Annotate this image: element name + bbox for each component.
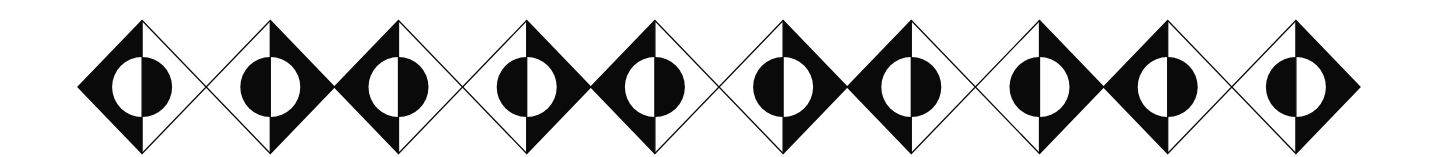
diamond-frieze bbox=[0, 0, 1438, 157]
diamond-a bbox=[78, 21, 206, 154]
diamond-b bbox=[463, 21, 591, 154]
diamond-a bbox=[847, 21, 975, 154]
diamond-a bbox=[591, 21, 719, 154]
diamond-a bbox=[334, 21, 462, 154]
diamond-b bbox=[975, 21, 1103, 154]
diamond-b bbox=[206, 21, 334, 154]
diamond-b bbox=[719, 21, 847, 154]
diamond-a bbox=[1104, 21, 1232, 154]
diamond-b bbox=[1232, 21, 1360, 154]
